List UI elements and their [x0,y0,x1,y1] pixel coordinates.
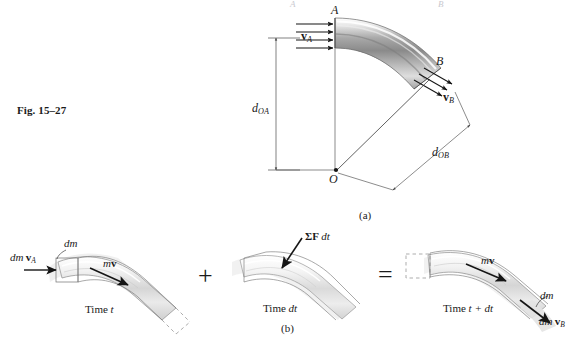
panel-3-element-label: dm [540,290,553,301]
point-b-label: B [436,55,443,67]
panel-3-caption-var: t + dt [469,302,494,314]
panel-1-inflow-sub: A [31,256,36,265]
part-a-group [268,18,470,190]
panel-1-caption-prefix: Time [85,303,111,315]
equals-operator: = [378,262,393,288]
panel-3-outflow-label: dm vB [539,316,565,329]
panel-1-momentum-v: v [111,257,117,269]
point-o-label: O [329,173,338,185]
panel-1-dm-leader [57,250,66,259]
panel-2-caption: Time dt [263,303,297,314]
panel-1-element-label: dm [64,238,77,249]
panel-1-inflow-dm: dm [10,251,23,263]
moment-arm-ob-subscript: OB [438,151,449,160]
panel-1-pipe [58,257,176,320]
panel-3-outflow-sub: B [560,320,565,329]
panel-3-caption-prefix: Time [443,302,469,314]
panel-2-impulse-label: ΣF dt [305,231,330,242]
figure-number-label: Fig. 15–27 [17,105,66,116]
panel-2-caption-var: dt [289,302,298,314]
panel-1-caption-var: t [111,303,114,315]
figure-vector-layer [0,0,585,340]
velocity-a-subscript: A [307,35,312,44]
panel-2-caption-prefix: Time [263,302,289,314]
part-a-caption: (a) [359,210,371,221]
velocity-b-label: vB [443,91,454,105]
point-a-label: A [331,4,338,16]
radius-line-ob [337,79,430,170]
moment-arm-ob-label: dOB [432,146,449,160]
dimension-doa [268,38,300,170]
dimension-dob [338,92,470,190]
plus-operator: + [198,263,213,289]
velocity-b-subscript: B [449,96,454,105]
pipe-a [335,18,441,89]
panel-1-momentum-label: mv [103,258,116,269]
panel-3-caption: Time t + dt [443,303,493,314]
figure-container: A B [0,0,585,340]
moment-arm-oa-subscript: OA [258,107,269,116]
panel-2-impulse-dt: dt [321,230,330,242]
part-b-caption: (b) [281,323,294,334]
panel-1-momentum-m: m [103,257,111,269]
moment-arm-oa-label: dOA [252,102,269,116]
panel-1-inflow-label: dm vA [10,252,36,265]
panel-1-caption: Time t [85,304,114,315]
panel-3-outflow-dm: dm [539,315,552,327]
velocity-a-label: vA [301,30,312,44]
panel-3-momentum-label: mv [481,255,494,266]
panel-3-momentum-m: m [481,254,489,266]
panel-3-momentum-v: v [489,254,495,266]
panel-2-impulse-force: F [312,230,319,242]
